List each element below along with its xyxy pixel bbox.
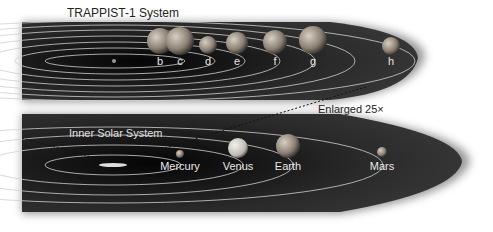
planet-mars: [377, 147, 387, 157]
planet-label-b: b: [157, 55, 163, 67]
planet-label-e: e: [234, 55, 240, 67]
planet-label-h: h: [388, 55, 394, 67]
diagram-canvas: [0, 0, 493, 232]
planet-label-f: f: [273, 55, 276, 67]
planet-label-earth: Earth: [275, 160, 301, 172]
planet-label-mercury: Mercury: [160, 160, 200, 172]
planet-mercury: [176, 150, 184, 158]
solar-title: Inner Solar System: [69, 127, 163, 139]
planet-h: [382, 37, 400, 55]
planet-label-c: c: [177, 55, 183, 67]
planet-venus: [228, 138, 248, 158]
planet-label-g: g: [310, 55, 316, 67]
planet-d: [199, 36, 217, 54]
planet-label-d: d: [205, 55, 211, 67]
planet-c: [166, 27, 194, 55]
planet-label-venus: Venus: [223, 160, 254, 172]
planet-g: [299, 26, 327, 54]
planet-e: [226, 32, 248, 54]
planet-f: [263, 30, 287, 54]
trappist-title: TRAPPIST-1 System: [67, 6, 179, 20]
planet-label-mars: Mars: [370, 160, 394, 172]
planet-earth: [276, 134, 300, 158]
trappist-disk: [0, 21, 425, 102]
enlarged-annotation: Enlarged 25×: [318, 103, 384, 115]
